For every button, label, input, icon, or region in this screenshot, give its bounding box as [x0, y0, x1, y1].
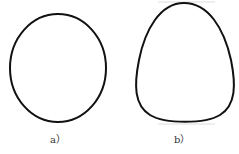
diagram-canvas	[0, 0, 239, 154]
ellipse-shape-a	[10, 14, 106, 122]
figure-label-a: a）	[50, 131, 66, 146]
figure-label-b: b）	[174, 131, 190, 146]
egg-shape-b	[136, 3, 234, 122]
